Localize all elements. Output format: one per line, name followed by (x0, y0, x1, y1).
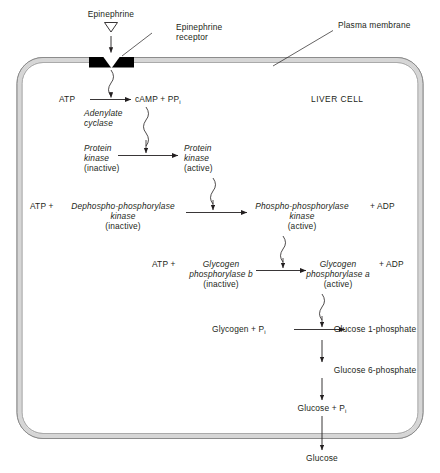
glycogen-cascade-diagram: Epinephrine Epinephrine receptor Plasma … (0, 0, 440, 473)
dephospho-phosphorylase-kinase-line1: Dephospho-phosphorylase (71, 201, 175, 211)
glycogen-phosphorylase-a-line3: (active) (324, 279, 353, 289)
camp-ppi-subscript: i (179, 98, 181, 105)
epinephrine-receptor-label-line2: receptor (176, 32, 208, 42)
adenylate-cyclase-label-line1: Adenylate (84, 108, 123, 118)
glucose-pi-text: Glucose + P (297, 403, 345, 413)
glycogen-pi-subscript: i (264, 328, 266, 335)
epinephrine-receptor-label-line1: Epinephrine (176, 22, 222, 32)
protein-kinase-inactive-line3: (inactive) (84, 163, 119, 173)
atp-label-step4: ATP + (152, 259, 175, 269)
plasma-membrane (17, 58, 423, 439)
adenylate-cyclase-label-line2: cyclase (84, 118, 113, 128)
camp-ppi-text: cAMP + PP (135, 94, 179, 104)
glucose-1-phosphate-label: Glucose 1-phosphate (334, 324, 416, 334)
glucose-pi-subscript: i (345, 407, 347, 414)
dephospho-phosphorylase-kinase-line3: (inactive) (105, 221, 140, 231)
glucose-exported-label: Glucose (306, 453, 338, 463)
glycogen-phosphorylase-a-line1: Glycogen (320, 259, 357, 269)
phospho-phosphorylase-kinase-line3: (active) (288, 221, 317, 231)
plasma-membrane-label: Plasma membrane (338, 20, 411, 30)
camp-ppi-label: cAMP + PPi (135, 94, 181, 105)
adp-label-step3: + ADP (370, 201, 395, 211)
dephospho-phosphorylase-kinase-line2: kinase (110, 211, 135, 221)
receptor-leader-line (122, 33, 152, 56)
liver-cell-label: LIVER CELL (311, 94, 363, 104)
atp-label-step1: ATP (59, 94, 75, 104)
protein-kinase-active-line3: (active) (184, 163, 213, 173)
atp-label-step3: ATP + (30, 201, 53, 211)
epinephrine-receptor-icon (89, 56, 134, 68)
adp-label-step4: + ADP (379, 259, 404, 269)
protein-kinase-inactive-line2: kinase (84, 153, 109, 163)
protein-kinase-active-line1: Protein (184, 143, 212, 153)
protein-kinase-inactive-line1: Protein (84, 143, 112, 153)
epinephrine-label: Epinephrine (88, 9, 134, 19)
protein-kinase-active-line2: kinase (184, 153, 209, 163)
epinephrine-molecule-icon (105, 23, 118, 33)
glycogen-phosphorylase-b-line2: phosphorylase b (189, 269, 253, 279)
glycogen-phosphorylase-b-line1: Glycogen (203, 259, 240, 269)
phospho-phosphorylase-kinase-line1: Phospho-phosphorylase (255, 201, 348, 211)
glucose-6-phosphate-label: Glucose 6-phosphate (334, 365, 416, 375)
phospho-phosphorylase-kinase-line2: kinase (289, 211, 314, 221)
glycogen-pi-text: Glycogen + P (212, 324, 264, 334)
glycogen-pi-label: Glycogen + Pi (212, 324, 266, 335)
glycogen-phosphorylase-a-line2: phosphorylase a (306, 269, 370, 279)
diagram-vector-layer (0, 0, 440, 473)
glycogen-phosphorylase-b-line3: (inactive) (203, 279, 238, 289)
glucose-pi-label: Glucose + Pi (297, 403, 346, 414)
